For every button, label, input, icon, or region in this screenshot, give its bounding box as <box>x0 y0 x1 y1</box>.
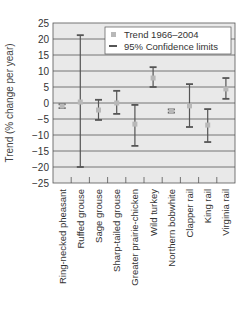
category-label: Clapper rail <box>184 189 195 238</box>
y-tick-label: 0 <box>43 98 49 109</box>
trend-chart: 2520151050−5−10−15−20−25 Ring-necked phe… <box>0 0 250 313</box>
y-tick-label: −20 <box>32 162 49 173</box>
y-tick-label: 5 <box>43 82 49 93</box>
y-tick-label: −10 <box>32 130 49 141</box>
trend-marker <box>78 100 83 105</box>
trend-marker <box>114 101 119 106</box>
category-label: Greater prairie-chicken <box>129 189 140 286</box>
legend-label-trend: Trend 1966–2004 <box>124 29 199 40</box>
legend: Trend 1966–2004 95% Confidence limits <box>105 27 231 54</box>
category-label: Northern bobwhite <box>166 189 177 267</box>
y-tick-label: −15 <box>32 146 49 157</box>
y-tick-label: −25 <box>32 178 49 189</box>
y-tick-label: −5 <box>38 114 50 125</box>
confidence-legend-marker-icon <box>109 45 117 47</box>
trend-marker <box>132 122 137 127</box>
trend-marker <box>187 103 192 108</box>
y-tick-label: 15 <box>38 50 50 61</box>
category-labels: Ring-necked pheasantRuffed grouseSage gr… <box>57 189 232 286</box>
y-tick-label: 20 <box>38 34 50 45</box>
legend-label-confidence: 95% Confidence limits <box>124 41 218 52</box>
category-label: Virginia rail <box>220 189 231 236</box>
trend-marker <box>151 76 156 81</box>
y-axis-label: Trend (% change per year) <box>4 43 15 162</box>
trend-marker <box>223 86 228 91</box>
y-tick-label: 25 <box>38 18 50 29</box>
trend-marker <box>60 104 65 109</box>
category-label: Ring-necked pheasant <box>57 189 68 284</box>
trend-marker <box>205 123 210 128</box>
trend-marker <box>169 109 174 114</box>
y-axis-ticks: 2520151050−5−10−15−20−25 <box>32 18 49 189</box>
trend-legend-marker-icon <box>111 32 116 37</box>
category-label: Wild turkey <box>148 189 159 236</box>
y-tick-label: 10 <box>38 66 50 77</box>
trend-marker <box>96 108 101 113</box>
category-label: Sage grouse <box>93 189 104 243</box>
category-label: Ruffed grouse <box>75 189 86 249</box>
category-label: Sharp-tailed grouse <box>111 189 122 272</box>
category-label: King rail <box>202 189 213 223</box>
